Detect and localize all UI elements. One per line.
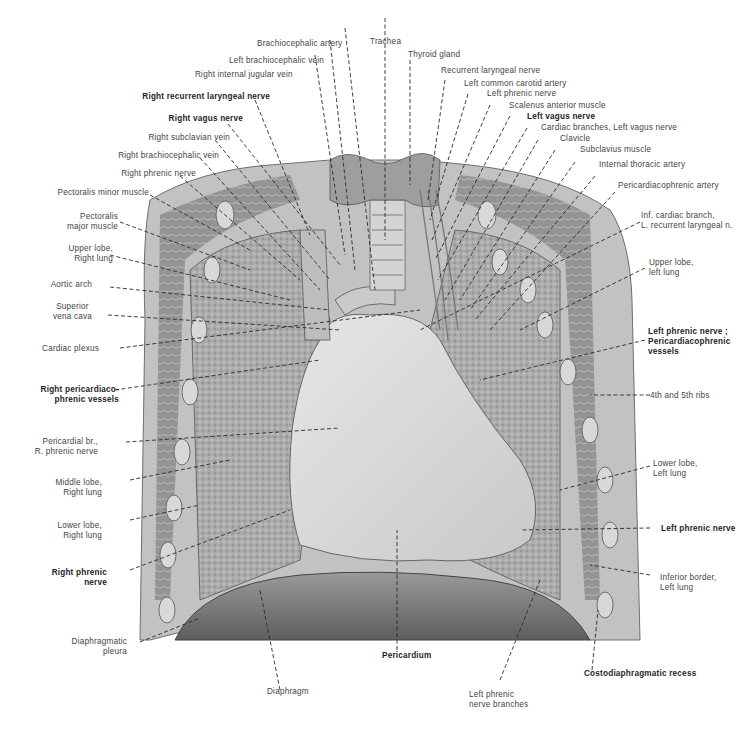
label-right-subclavian-vein: Right subclavian vein xyxy=(148,133,230,143)
thorax-illustration xyxy=(0,0,749,741)
label-right-recurrent-laryngeal-nerve: Right recurrent laryngeal nerve xyxy=(142,92,270,102)
label-upper-lobe-left-lung: Upper lobe, left lung xyxy=(649,258,694,278)
label-pectoralis-major-muscle: Pectoralis major muscle xyxy=(67,212,118,232)
label-scalenus-anterior-muscle: Scalenus anterior muscle xyxy=(509,101,606,111)
label-left-common-carotid-artery: Left common carotid artery xyxy=(464,79,567,89)
label-pericardial-branch-r-phrenic-nerve: Pericardial br., R. phrenic nerve xyxy=(35,437,98,457)
label-lower-lobe-right-lung: Lower lobe, Right lung xyxy=(57,521,102,541)
label-aortic-arch: Aortic arch xyxy=(51,280,92,290)
label-costodiaphragmatic-recess: Costodiaphragmatic recess xyxy=(584,669,696,679)
label-brachiocephalic-artery: Brachiocephalic artery xyxy=(257,39,342,49)
label-right-phrenic-nerve-lower: Right phrenic nerve xyxy=(52,568,107,588)
label-left-phrenic-nerve-pericardiacophrenic-vessels: Left phrenic nerve ; Pericardiacophrenic… xyxy=(648,327,731,357)
label-superior-vena-cava: Superior vena cava xyxy=(53,302,92,322)
label-right-pericardiacophrenic-vessels: Right pericardiaco- phrenic vessels xyxy=(41,385,119,405)
label-left-vagus-nerve: Left vagus nerve xyxy=(527,112,595,122)
label-middle-lobe-right-lung: Middle lobe, Right lung xyxy=(55,478,102,498)
label-right-brachiocephalic-vein: Right brachiocephalic vein xyxy=(118,151,219,161)
label-cardiac-plexus: Cardiac plexus xyxy=(42,344,99,354)
label-right-phrenic-nerve: Right phrenic nerve xyxy=(121,169,196,179)
label-internal-thoracic-artery: Internal thoracic artery xyxy=(599,160,685,170)
label-left-phrenic-nerve-top: Left phrenic nerve xyxy=(487,89,556,99)
label-subclavius-muscle: Subclavius muscle xyxy=(580,145,651,155)
label-diaphragm: Diaphragm xyxy=(267,687,309,697)
label-diaphragmatic-pleura: Diaphragmatic pleura xyxy=(72,637,127,657)
label-inferior-border-left-lung: Inferior border, Left lung xyxy=(660,573,716,593)
label-left-phrenic-nerve-lower: Left phrenic nerve xyxy=(661,524,736,534)
label-recurrent-laryngeal-nerve: Recurrent laryngeal nerve xyxy=(441,66,540,76)
label-upper-lobe-right-lung: Upper lobe, Right lung xyxy=(68,244,113,264)
label-inf-cardiac-branch: Inf. cardiac branch, L. recurrent laryng… xyxy=(641,211,732,231)
label-pectoralis-minor-muscle: Pectoralis minor muscle xyxy=(57,188,149,198)
label-4th-5th-ribs: 4th and 5th ribs xyxy=(650,391,710,401)
label-right-vagus-nerve: Right vagus nerve xyxy=(169,114,243,124)
label-right-internal-jugular-vein: Right internal jugular vein xyxy=(195,70,293,80)
label-left-phrenic-nerve-branches: Left phrenic nerve branches xyxy=(469,690,528,710)
label-trachea: Trachea xyxy=(370,37,401,47)
label-pericardium: Pericardium xyxy=(382,651,432,661)
label-clavicle: Clavicle xyxy=(560,134,590,144)
label-thyroid-gland: Thyroid gland xyxy=(408,50,460,60)
label-left-brachiocephalic-vein: Left brachiocephalic vein xyxy=(229,56,324,66)
label-pericardiacophrenic-artery: Pericardiacophrenic artery xyxy=(618,181,719,191)
label-cardiac-branches-left-vagus-nerve: Cardiac branches, Left vagus nerve xyxy=(541,123,677,133)
label-lower-lobe-left-lung: Lower lobe, Left lung xyxy=(653,459,698,479)
